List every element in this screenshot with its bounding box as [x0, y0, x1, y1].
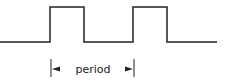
square-wave-signal — [0, 7, 217, 42]
period-label: period — [72, 63, 114, 76]
period-left-arrow-icon — [52, 67, 60, 72]
period-right-arrow-icon — [125, 67, 133, 72]
square-wave-diagram — [0, 0, 230, 82]
